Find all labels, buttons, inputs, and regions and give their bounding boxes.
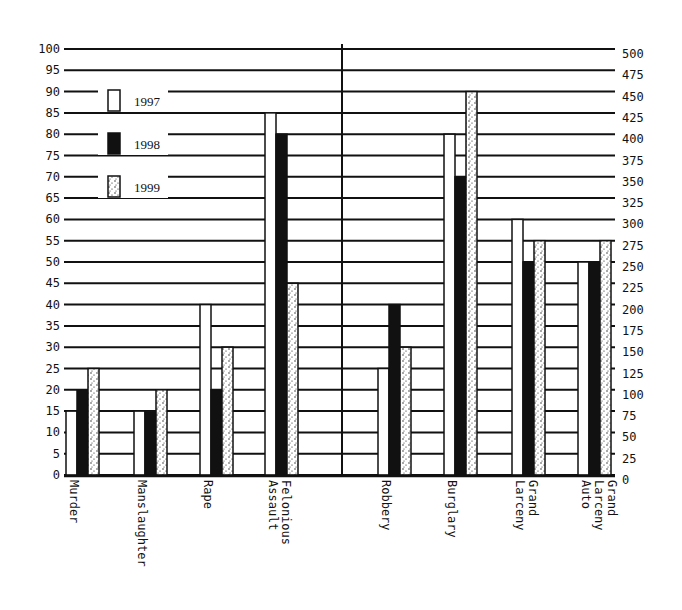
right-tick-label: 325 bbox=[622, 196, 644, 210]
left-tick-label: 60 bbox=[46, 212, 60, 226]
bar-1998 bbox=[455, 177, 466, 475]
left-tick-label: 95 bbox=[46, 63, 60, 77]
right-tick-label: 450 bbox=[622, 90, 644, 104]
right-tick-label: 150 bbox=[622, 345, 644, 359]
right-tick-label: 375 bbox=[622, 154, 644, 168]
bar-1997 bbox=[512, 219, 523, 475]
category-label: Burglary bbox=[445, 480, 459, 538]
left-tick-label: 50 bbox=[46, 255, 60, 269]
right-tick-label: 425 bbox=[622, 111, 644, 125]
bar-1999 bbox=[222, 347, 233, 475]
bar-1998 bbox=[589, 262, 600, 475]
bar-1998 bbox=[145, 411, 156, 475]
crime-bar-chart: 0510152025303540455055606570758085909510… bbox=[0, 0, 682, 610]
bar-group-murder bbox=[66, 369, 99, 476]
category-label: Larceny bbox=[513, 480, 527, 531]
bar-1999 bbox=[466, 92, 477, 475]
left-tick-label: 75 bbox=[46, 149, 60, 163]
bar-group-robbery bbox=[378, 305, 411, 475]
category-labels: MurderManslaughterRapeFeloniousAssaultRo… bbox=[67, 480, 619, 567]
bar-1999 bbox=[400, 347, 411, 475]
bar-1999 bbox=[156, 390, 167, 475]
right-tick-label: 400 bbox=[622, 132, 644, 146]
left-tick-label: 20 bbox=[46, 383, 60, 397]
right-tick-label: 475 bbox=[622, 68, 644, 82]
right-tick-label: 25 bbox=[622, 452, 636, 466]
left-tick-label: 10 bbox=[46, 425, 60, 439]
legend-label: 1997 bbox=[134, 94, 161, 109]
right-tick-label: 100 bbox=[622, 388, 644, 402]
category-label: Murder bbox=[67, 480, 81, 523]
right-tick-label: 75 bbox=[622, 409, 636, 423]
bar-1999 bbox=[534, 241, 545, 475]
left-tick-label: 25 bbox=[46, 362, 60, 376]
legend: 199719981999 bbox=[98, 88, 168, 198]
bar-1997 bbox=[200, 305, 211, 475]
left-tick-label: 45 bbox=[46, 276, 60, 290]
right-tick-label: 0 bbox=[622, 473, 629, 487]
category-label: Assault bbox=[266, 480, 280, 531]
bar-1999 bbox=[287, 283, 298, 475]
right-axis-ticks: 0255075100125150175200225250275300325350… bbox=[622, 47, 644, 487]
left-tick-label: 5 bbox=[53, 447, 60, 461]
bar-1998 bbox=[77, 390, 88, 475]
left-tick-label: 15 bbox=[46, 404, 60, 418]
bar-1997 bbox=[66, 411, 77, 475]
bar-1998 bbox=[276, 134, 287, 475]
category-label: Rape bbox=[201, 480, 215, 509]
bar-1998 bbox=[523, 262, 534, 475]
left-tick-label: 30 bbox=[46, 340, 60, 354]
category-label: Grand bbox=[526, 480, 540, 516]
right-tick-label: 225 bbox=[622, 281, 644, 295]
bar-group-grand-larceny bbox=[512, 219, 545, 475]
legend-swatch-1997 bbox=[108, 90, 120, 111]
left-tick-label: 65 bbox=[46, 191, 60, 205]
bar-group-rape bbox=[200, 305, 233, 475]
category-label: Auto bbox=[579, 480, 593, 509]
bar-1997 bbox=[265, 113, 276, 475]
category-label: Robbery bbox=[379, 480, 393, 531]
bar-1998 bbox=[211, 390, 222, 475]
right-tick-label: 350 bbox=[622, 175, 644, 189]
legend-label: 1999 bbox=[134, 180, 160, 195]
left-tick-label: 40 bbox=[46, 298, 60, 312]
left-tick-label: 100 bbox=[38, 42, 60, 56]
left-tick-label: 35 bbox=[46, 319, 60, 333]
left-tick-label: 85 bbox=[46, 106, 60, 120]
legend-label: 1998 bbox=[134, 137, 160, 152]
right-tick-label: 50 bbox=[622, 430, 636, 444]
left-tick-label: 0 bbox=[53, 468, 60, 482]
bar-1997 bbox=[444, 134, 455, 475]
left-tick-label: 80 bbox=[46, 127, 60, 141]
bar-group-felonious-assault bbox=[265, 113, 298, 475]
bar-1997 bbox=[378, 369, 389, 476]
bar-1997 bbox=[578, 262, 589, 475]
category-label: Grand bbox=[605, 480, 619, 516]
category-label: Manslaughter bbox=[135, 480, 149, 567]
right-tick-label: 125 bbox=[622, 367, 644, 381]
right-tick-label: 275 bbox=[622, 239, 644, 253]
left-tick-label: 90 bbox=[46, 85, 60, 99]
bar-1999 bbox=[88, 369, 99, 476]
right-tick-label: 500 bbox=[622, 47, 644, 61]
category-label: Larceny bbox=[592, 480, 606, 531]
legend-swatch-1999 bbox=[108, 176, 120, 197]
left-tick-label: 70 bbox=[46, 170, 60, 184]
right-tick-label: 200 bbox=[622, 303, 644, 317]
bar-1998 bbox=[389, 305, 400, 475]
category-label: Felonious bbox=[279, 480, 293, 545]
bar-group-burglary bbox=[444, 92, 477, 475]
bar-group-grand-larceny-auto bbox=[578, 241, 611, 475]
left-axis-ticks: 0510152025303540455055606570758085909510… bbox=[38, 42, 60, 482]
legend-swatch-1998 bbox=[108, 133, 120, 154]
bar-group-manslaughter bbox=[134, 390, 167, 475]
right-tick-label: 300 bbox=[622, 217, 644, 231]
right-tick-label: 250 bbox=[622, 260, 644, 274]
right-tick-label: 175 bbox=[622, 324, 644, 338]
bar-1997 bbox=[134, 411, 145, 475]
left-tick-label: 55 bbox=[46, 234, 60, 248]
bar-1999 bbox=[600, 241, 611, 475]
